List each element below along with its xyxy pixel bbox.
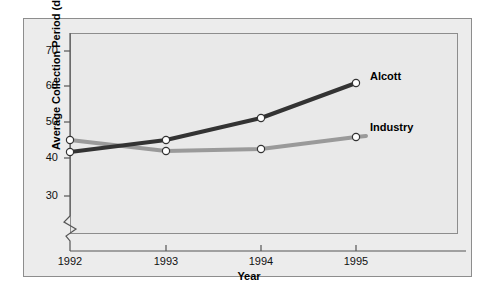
y-axis-title: Average Collection Period (days) bbox=[50, 0, 62, 150]
y-tick-label-40: 40 bbox=[24, 151, 58, 163]
chart-drawing-area bbox=[24, 19, 473, 278]
series-label-industry: Industry bbox=[370, 121, 413, 133]
x-tick-label-1995: 1995 bbox=[326, 255, 386, 267]
x-tick-marks bbox=[166, 245, 356, 251]
series-label-alcott: Alcott bbox=[370, 70, 401, 82]
x-tick-label-1994: 1994 bbox=[231, 255, 291, 267]
axis-break-zigzag bbox=[64, 216, 76, 251]
series-industry bbox=[66, 133, 366, 154]
x-tick-label-1992: 1992 bbox=[40, 255, 100, 267]
figure-frame: 70 60 50 40 30 1992 1993 1994 1995 Avera… bbox=[23, 18, 472, 277]
y-tick-label-30: 30 bbox=[24, 189, 58, 201]
x-axis-title: Year bbox=[194, 270, 304, 282]
y-tick-marks bbox=[64, 51, 70, 196]
x-tick-label-1993: 1993 bbox=[136, 255, 196, 267]
